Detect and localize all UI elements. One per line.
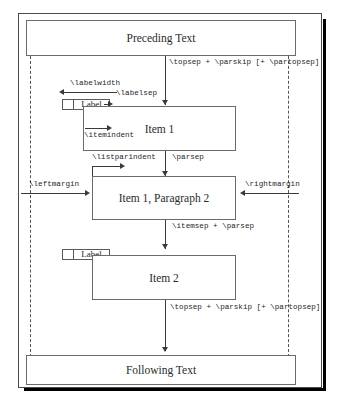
following-text-label: Following Text bbox=[27, 364, 295, 376]
itemindent-annotation: \itemindent bbox=[84, 131, 134, 139]
item2-box: Item 2 bbox=[92, 255, 236, 300]
leftmargin-annotation: \leftmargin bbox=[29, 180, 79, 188]
topsep-top-rule bbox=[165, 56, 166, 105]
listparindent-notch-left bbox=[92, 166, 93, 176]
following-text-box: Following Text bbox=[26, 355, 296, 385]
right-margin-guide bbox=[288, 56, 289, 357]
preceding-text-label: Preceding Text bbox=[27, 32, 295, 44]
topsep-bottom-rule bbox=[165, 300, 166, 351]
labelwidth-rule bbox=[62, 92, 117, 93]
item2-label: Item 2 bbox=[93, 272, 235, 284]
preceding-text-box: Preceding Text bbox=[26, 20, 296, 56]
item1-paragraph2-label: Item 1, Paragraph 2 bbox=[93, 192, 235, 204]
topsep-top-annotation: \topsep + \parskip [+ \partopsep] bbox=[169, 58, 319, 66]
labelwidth-annotation: \labelwidth bbox=[70, 79, 120, 87]
itemsep-annotation: \itemsep + \parsep bbox=[172, 222, 254, 230]
topsep-bottom-arrowhead bbox=[162, 347, 168, 352]
labelsep-annotation: \labelsep bbox=[116, 89, 157, 97]
leftmargin-rule bbox=[21, 193, 87, 194]
listparindent-arrowhead bbox=[120, 163, 125, 169]
figure-shadow-right bbox=[323, 19, 326, 391]
topsep-bottom-annotation: \topsep + \parskip [+ \partopsep] bbox=[170, 303, 320, 311]
labelwidth-arrowhead bbox=[59, 89, 64, 95]
rightmargin-arrowhead bbox=[240, 190, 245, 196]
topsep-top-arrowhead bbox=[162, 100, 168, 105]
rightmargin-annotation: \rightmargin bbox=[245, 180, 300, 188]
figure-shadow-bottom bbox=[24, 388, 326, 391]
item2-label-swatch bbox=[63, 250, 74, 259]
figure-canvas: Preceding Text \topsep + \parskip [+ \pa… bbox=[0, 0, 343, 410]
leftmargin-arrowhead bbox=[85, 190, 90, 196]
listparindent-annotation: \listparindent bbox=[92, 153, 156, 161]
itemindent-arrowhead bbox=[107, 125, 112, 131]
item1-label-swatch bbox=[63, 100, 74, 109]
parsep-annotation: \parsep bbox=[172, 153, 204, 161]
rightmargin-rule bbox=[245, 193, 299, 194]
itemsep-arrowhead bbox=[162, 244, 168, 249]
left-margin-guide bbox=[30, 56, 31, 357]
item1-paragraph2-box: Item 1, Paragraph 2 bbox=[92, 176, 236, 220]
